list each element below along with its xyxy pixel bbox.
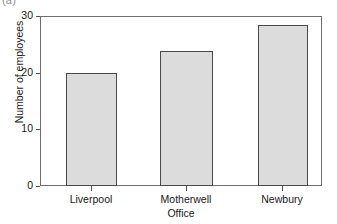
y-tick-30: 30 bbox=[0, 16, 40, 17]
y-tick-10: 10 bbox=[0, 129, 40, 130]
bar-motherwell[interactable] bbox=[160, 51, 213, 186]
y-tick-0: 0 bbox=[0, 186, 40, 187]
y-tick-label-10: 10 bbox=[21, 122, 33, 135]
x-axis-title: Office bbox=[40, 207, 322, 219]
bar-newbury[interactable] bbox=[258, 25, 308, 186]
x-tick-label-newbury: Newbury bbox=[222, 193, 337, 205]
x-tick-mark-newbury bbox=[282, 186, 283, 191]
bar-chart-figure: (a) Number of employees 30 20 10 0 Liver… bbox=[0, 0, 337, 224]
x-tick-mark-motherwell bbox=[186, 186, 187, 191]
y-tick-20: 20 bbox=[0, 73, 40, 74]
y-tick-label-0: 0 bbox=[27, 179, 33, 192]
x-tick-mark-liverpool bbox=[91, 186, 92, 191]
plot-area bbox=[41, 17, 321, 186]
y-tick-label-20: 20 bbox=[21, 66, 33, 79]
y-tick-mark-0 bbox=[36, 186, 40, 187]
y-tick-label-30: 30 bbox=[21, 9, 33, 22]
bar-liverpool[interactable] bbox=[66, 73, 117, 186]
